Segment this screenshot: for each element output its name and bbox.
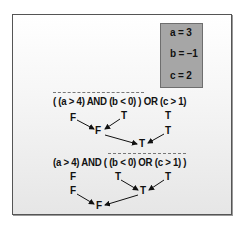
diagram-frame: a = 3 b = −1 c = 2 ( (a > 4) AND (b < 0)… bbox=[12, 14, 232, 215]
arrow-icon bbox=[149, 180, 164, 190]
arrow-icon bbox=[105, 119, 120, 129]
evaluation-arrows bbox=[13, 15, 231, 214]
arrow-icon bbox=[77, 194, 94, 204]
arrow-icon bbox=[121, 180, 138, 190]
arrow-icon bbox=[105, 135, 137, 144]
arrow-icon bbox=[77, 120, 94, 129]
arrow-icon bbox=[148, 134, 164, 143]
arrow-icon bbox=[105, 195, 138, 205]
